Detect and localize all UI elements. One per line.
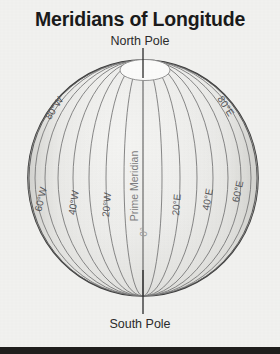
meridian-label-20E: 20°E: [170, 193, 183, 216]
bottom-border-rule: [0, 347, 280, 354]
longitude-diagram-figure: Meridians of Longitude North Pole: [0, 0, 280, 354]
globe-illustration: 80°W 60°W 40°W 20°W 0° 20°E 40°E 60°E 80…: [0, 0, 280, 354]
prime-meridian-label: Prime Meridian: [128, 151, 140, 222]
meridian-label-0: 0°: [138, 227, 149, 237]
north-polar-cap: [120, 60, 170, 81]
meridian-label-20W: 20°W: [100, 191, 113, 217]
